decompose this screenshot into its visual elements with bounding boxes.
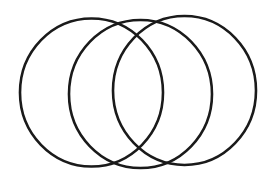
background (0, 0, 271, 184)
venn-diagram (0, 0, 271, 184)
